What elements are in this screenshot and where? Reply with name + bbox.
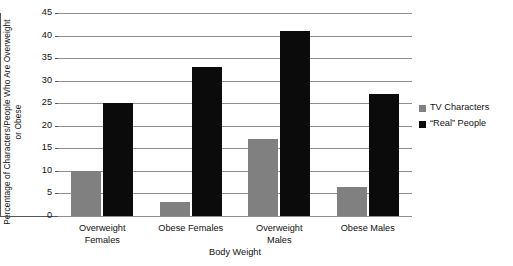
- x-axis-label-2-line-1: Males: [235, 235, 324, 247]
- y-tick-label-40: 40: [30, 31, 52, 40]
- bar-overweight-males-series-1: [248, 139, 278, 216]
- gridline-0: [58, 216, 412, 217]
- y-tick-label-5: 5: [30, 188, 52, 197]
- y-tick-label-30: 30: [30, 76, 52, 85]
- gridline-40: [58, 36, 412, 37]
- legend-swatch-icon-1: [419, 105, 426, 112]
- bar-obese-females-series-2: [192, 67, 222, 216]
- bar-obese-males-series-1: [337, 187, 367, 216]
- y-tick-label-45: 45: [30, 8, 52, 17]
- y-tick-label-20: 20: [30, 121, 52, 130]
- x-axis-label-2-line-0: Overweight: [235, 223, 324, 235]
- legend-swatch-icon-2: [419, 121, 426, 128]
- x-axis-label-1: Obese Females: [147, 223, 236, 235]
- gridline-35: [58, 58, 412, 59]
- gridline-30: [58, 81, 412, 82]
- bar-overweight-males-series-2: [280, 31, 310, 216]
- legend-label-2: “Real” People: [430, 119, 486, 128]
- x-axis-label-1-line-0: Obese Females: [147, 223, 236, 235]
- plot-area: [58, 13, 412, 216]
- x-axis-title: Body Weight: [58, 247, 412, 257]
- legend-label-1: TV Characters: [430, 103, 489, 112]
- x-axis-label-3-line-0: Obese Males: [324, 223, 413, 235]
- y-axis-title: Percentage of Characters/People Who Are …: [2, 19, 32, 225]
- x-axis-label-2: OverweightMales: [235, 223, 324, 246]
- gridline-45: [58, 13, 412, 14]
- legend-item-2[interactable]: “Real” People: [419, 116, 513, 132]
- bar-overweight-females-series-2: [103, 103, 133, 216]
- legend-item-1[interactable]: TV Characters: [419, 100, 513, 116]
- x-axis-label-0: OverweightFemales: [58, 223, 147, 246]
- y-tick-label-10: 10: [30, 166, 52, 175]
- y-tick-label-15: 15: [30, 143, 52, 152]
- x-axis-label-0-line-1: Females: [58, 235, 147, 247]
- bar-overweight-females-series-1: [71, 171, 101, 216]
- bar-obese-males-series-2: [369, 94, 399, 216]
- y-tick-label-0: 0: [30, 211, 52, 220]
- chart-legend: TV Characters“Real” People: [419, 100, 513, 132]
- y-axis-line: [0, 13, 1, 217]
- y-tick-label-25: 25: [30, 98, 52, 107]
- x-axis-label-0-line-0: Overweight: [58, 223, 147, 235]
- bar-chart: Percentage of Characters/People Who Are …: [0, 0, 513, 266]
- bar-obese-females-series-1: [160, 202, 190, 216]
- x-axis-label-3: Obese Males: [324, 223, 413, 235]
- y-tick-label-35: 35: [30, 53, 52, 62]
